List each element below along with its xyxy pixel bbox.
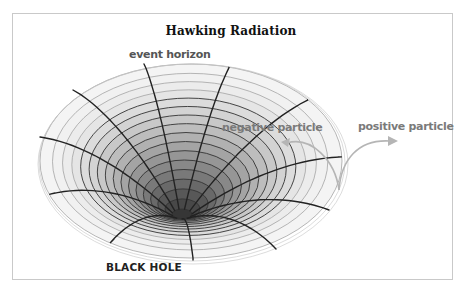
positive-particle-label: positive particle: [358, 120, 454, 133]
positive-arrowhead-icon: [388, 136, 398, 146]
black-hole-label: BLACK HOLE: [106, 261, 182, 273]
positive-particle-arrow: [339, 141, 390, 190]
black-hole-funnel-diagram: [0, 0, 462, 291]
event-horizon-label: event horizon: [129, 48, 211, 61]
negative-particle-label: negative particle: [222, 121, 322, 134]
